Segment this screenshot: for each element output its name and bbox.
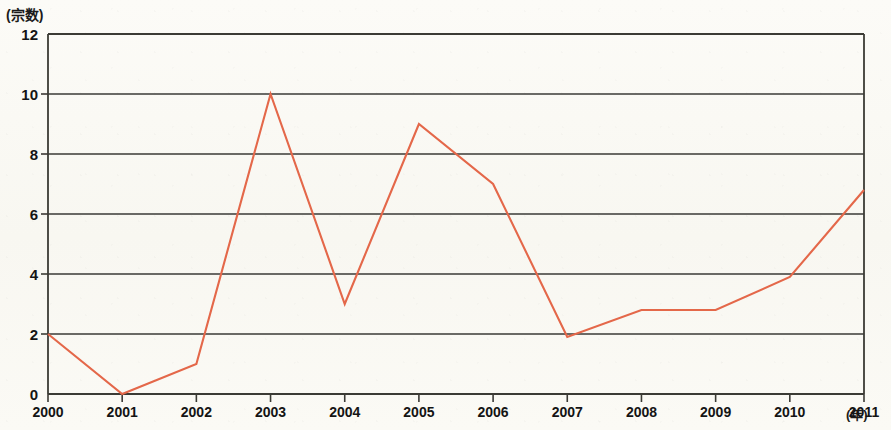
data-series-line	[48, 94, 864, 394]
line-chart-plot	[0, 0, 891, 430]
axis-ticks	[41, 94, 864, 402]
chart-page: (宗数) (年) 024681012 200020012002200320042…	[0, 0, 891, 430]
series-line-munsu	[48, 94, 864, 394]
